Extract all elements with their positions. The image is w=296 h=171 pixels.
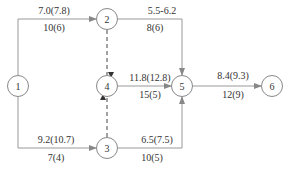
edge-4-5-duration: 11.8(12.8) [129, 72, 170, 83]
edge-1-2-cost: 10(6) [43, 22, 65, 33]
edge-4-5-cost: 15(5) [139, 89, 161, 100]
edge-2-5-duration: 5.5-6.2 [148, 5, 176, 16]
edge-5-6-cost: 12(9) [222, 89, 244, 100]
edge-2-5-cost: 8(6) [147, 22, 164, 33]
edge-1-3-duration: 9.2(10.7) [38, 134, 75, 145]
node-1-label: 1 [16, 82, 21, 92]
edge-1-2-duration: 7.0(7.8) [38, 5, 70, 16]
edge-3-5-duration: 6.5(7.5) [141, 134, 173, 145]
edge-5-6-duration: 8.4(9.3) [217, 70, 249, 81]
node-6-label: 6 [270, 82, 275, 92]
edge-1-3-cost: 7(4) [48, 152, 65, 163]
node-5-label: 5 [180, 82, 185, 92]
node-3-label: 3 [105, 144, 110, 154]
edge-3-5-cost: 10(5) [141, 152, 163, 163]
node-2-label: 2 [105, 15, 110, 25]
node-4-label: 4 [105, 82, 110, 92]
